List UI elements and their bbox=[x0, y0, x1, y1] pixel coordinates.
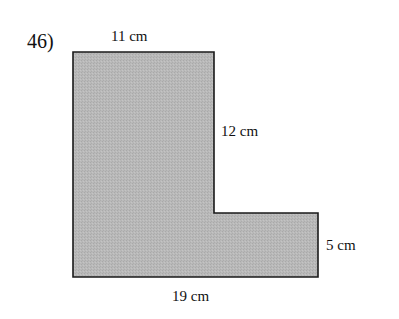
dimension-label-right-upper: 12 cm bbox=[221, 124, 258, 139]
l-shape-polygon bbox=[73, 52, 318, 277]
dimension-label-right-lower: 5 cm bbox=[326, 238, 356, 253]
l-shape-figure bbox=[0, 0, 399, 319]
problem-number: 46) bbox=[27, 31, 54, 51]
dimension-label-top: 11 cm bbox=[111, 29, 148, 44]
figure-canvas bbox=[0, 0, 399, 319]
dimension-label-bottom: 19 cm bbox=[172, 289, 209, 304]
